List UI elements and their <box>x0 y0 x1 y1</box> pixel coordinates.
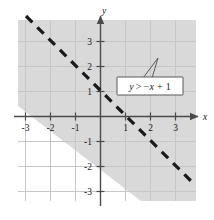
x-tick-label: 2 <box>148 123 153 133</box>
inequality-constant: 1 <box>166 81 171 92</box>
shaded-solution-region <box>18 0 196 201</box>
y-tick-label: 1 <box>87 87 92 97</box>
y-tick-label: -1 <box>84 137 92 147</box>
y-tick-label: -3 <box>84 187 92 197</box>
y-tick-label: 3 <box>87 37 92 47</box>
inequality-variable: x <box>149 81 155 92</box>
x-axis-label: x <box>202 112 208 122</box>
x-tick-label: 1 <box>123 123 128 133</box>
inequality-lhs: y <box>128 81 134 92</box>
coordinate-plane: -3 -2 -1 1 2 3 3 2 1 -1 -2 -3 x y y> <box>0 0 214 220</box>
x-tick-label: -3 <box>22 123 30 133</box>
y-tick-label: -2 <box>84 162 92 172</box>
inequality-operator: > <box>136 81 142 92</box>
x-tick-label: -2 <box>47 123 55 133</box>
inequality-graph-figure: -3 -2 -1 1 2 3 3 2 1 -1 -2 -3 x y y> <box>0 0 214 220</box>
y-axis-label: y <box>101 6 107 16</box>
inequality-negative-sign: − <box>143 81 149 92</box>
x-tick-label: 3 <box>173 123 178 133</box>
inequality-plus-sign: + <box>157 81 163 92</box>
x-tick-label: -1 <box>72 123 80 133</box>
y-tick-label: 2 <box>87 62 92 72</box>
